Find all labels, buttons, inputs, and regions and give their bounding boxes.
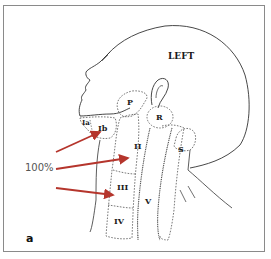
arrow-to-iii [56, 188, 113, 195]
region-iv-label: IV [114, 217, 124, 225]
arrow-to-ii [56, 158, 128, 169]
panel-label: a [26, 232, 33, 245]
region-iii-label: III [117, 183, 128, 191]
jaw-line [80, 108, 130, 116]
side-label: LEFT [168, 52, 194, 61]
scm-back [158, 128, 172, 240]
region-v-outline [160, 125, 184, 240]
region-ib-label: Ib [98, 124, 107, 132]
percentage-label: 100% [25, 162, 54, 173]
region-s-label: S [178, 145, 184, 153]
region-ia-label: Ia [82, 119, 90, 126]
face-profile [79, 55, 107, 116]
region-ii-label: II [134, 142, 141, 150]
head-neck-diagram [0, 0, 271, 259]
region-p-label: P [127, 98, 133, 106]
anterior-neck [90, 140, 100, 232]
region-r-label: R [156, 113, 163, 121]
ear-outline [151, 78, 168, 108]
region-v-label: V [145, 197, 151, 205]
back-neck [188, 150, 232, 208]
arrow-to-ib [56, 132, 100, 152]
